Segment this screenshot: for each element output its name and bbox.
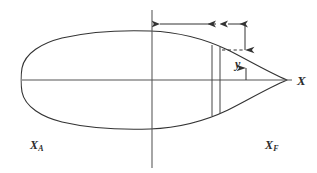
x-aft-label: XA — [30, 139, 44, 153]
hull-offset-diagram: X XA XF y — [0, 0, 317, 173]
dimension-gap-right-arrow — [240, 21, 249, 28]
x-forward-label: XF — [265, 139, 279, 153]
x-forward-base: X — [265, 138, 273, 152]
x-aft-base: X — [30, 138, 38, 152]
y-offset-label: y — [235, 58, 240, 70]
x-forward-subscript: F — [273, 144, 278, 153]
x-aft-subscript: A — [38, 144, 43, 153]
x-axis-label: X — [297, 74, 306, 87]
